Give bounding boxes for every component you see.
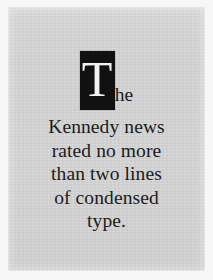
dropcap-wrap: The	[80, 51, 134, 114]
headline-line-3: rated no more	[16, 139, 197, 163]
headline-line-1: he	[115, 85, 134, 105]
advertisement-scan: The Kennedy news rated no more than two …	[0, 0, 213, 280]
headline-line-4: than two lines	[16, 162, 197, 186]
headline-line-6: type.	[16, 209, 197, 233]
headline-line-2: Kennedy news	[16, 115, 197, 139]
poster-plate: The Kennedy news rated no more than two …	[8, 7, 205, 271]
headline-line-5: of condensed	[16, 186, 197, 210]
headline-block: The Kennedy news rated no more than two …	[8, 51, 205, 233]
dropcap-line: The	[16, 51, 197, 114]
dropcap-letter-t: T	[80, 51, 115, 110]
